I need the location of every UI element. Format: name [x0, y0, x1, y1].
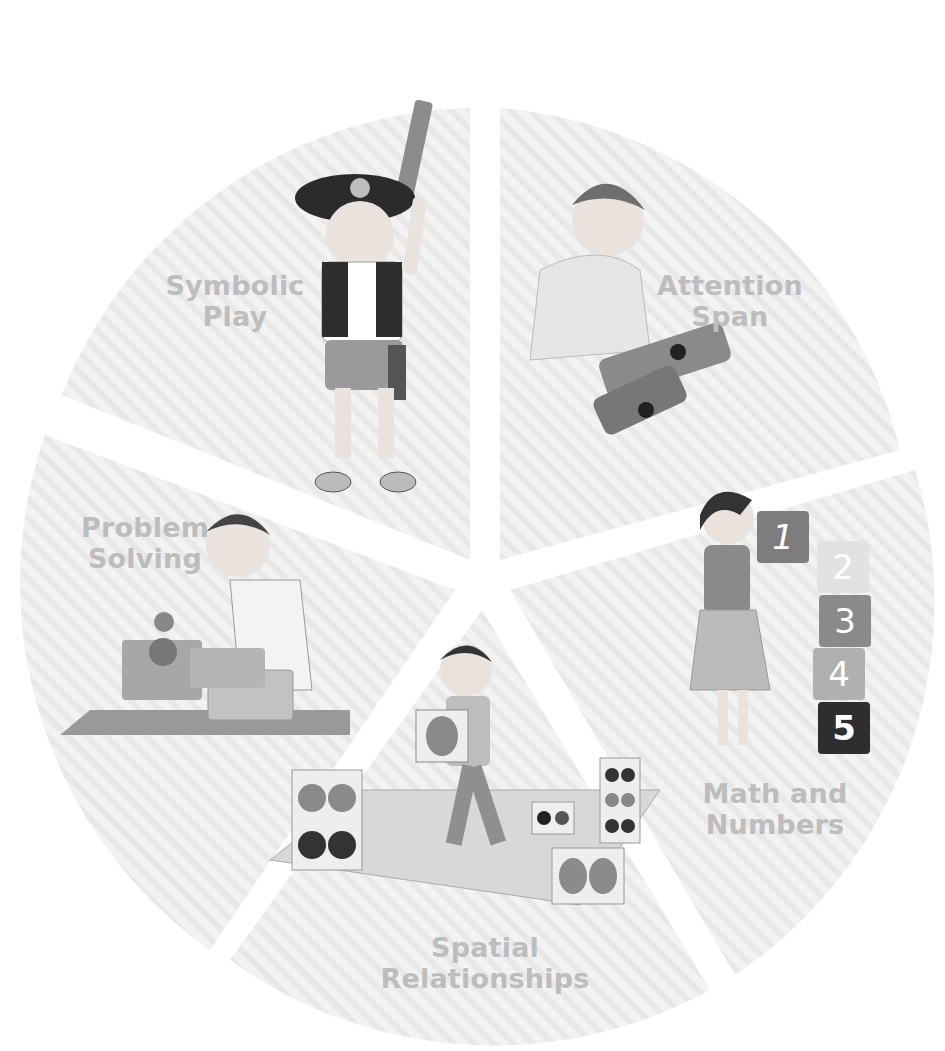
- number-block-2: 2: [817, 541, 869, 593]
- number-block-5: 5: [818, 702, 870, 754]
- label-problem-solving: Problem Solving: [60, 512, 230, 574]
- label-attention-span-line1: Attention: [645, 270, 815, 301]
- label-symbolic-play-line2: Play: [150, 301, 320, 332]
- number-block-1: 1: [757, 511, 809, 563]
- label-problem-solving-line1: Problem: [60, 512, 230, 543]
- label-spatial-relationships-line2: Relationships: [360, 963, 610, 994]
- label-math-and-numbers-line1: Math and: [690, 778, 860, 809]
- label-attention-span-line2: Span: [645, 301, 815, 332]
- label-spatial-relationships-line1: Spatial: [360, 932, 610, 963]
- label-math-and-numbers: Math and Numbers: [690, 778, 860, 840]
- label-math-and-numbers-line2: Numbers: [690, 809, 860, 840]
- label-problem-solving-line2: Solving: [60, 543, 230, 574]
- label-attention-span: Attention Span: [645, 270, 815, 332]
- label-symbolic-play: Symbolic Play: [150, 270, 320, 332]
- label-spatial-relationships: Spatial Relationships: [360, 932, 610, 994]
- number-block-3: 3: [819, 595, 871, 647]
- number-block-4: 4: [813, 648, 865, 700]
- label-symbolic-play-line1: Symbolic: [150, 270, 320, 301]
